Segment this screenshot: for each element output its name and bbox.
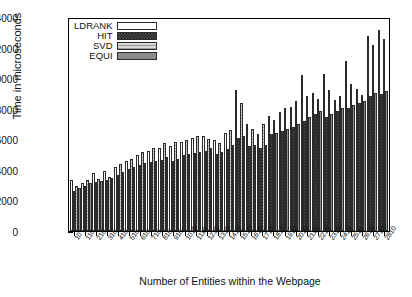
x-axis-title: Number of Entities within the Webpage <box>68 275 392 287</box>
bar-group <box>235 19 246 231</box>
bar-group <box>213 19 224 231</box>
y-axis-tick-6000: 6000 <box>0 135 18 146</box>
y-axis-tick-12000: 12000 <box>0 43 18 54</box>
bar-group <box>256 19 267 231</box>
bar-group <box>224 19 235 231</box>
bar-group <box>311 19 322 231</box>
bar-group <box>246 19 257 231</box>
y-axis-tick-10000: 10000 <box>0 74 18 85</box>
legend-swatch-hit <box>117 32 157 40</box>
bar-group <box>344 19 355 231</box>
bar-group <box>180 19 191 231</box>
bar-group <box>322 19 333 231</box>
bar-group <box>191 19 202 231</box>
bar-group <box>278 19 289 231</box>
chart-legend: LDRANKHITSVDEQUI <box>72 20 159 61</box>
bar-group <box>158 19 169 231</box>
legend-label: SVD <box>93 41 113 50</box>
legend-swatch-ldrank <box>117 22 157 30</box>
legend-item-equi: EQUI <box>74 51 157 60</box>
bar-group <box>289 19 300 231</box>
legend-item-svd: SVD <box>74 41 157 50</box>
legend-label: EQUI <box>89 51 112 60</box>
bar-group <box>377 19 388 231</box>
y-axis-tick-0: 0 <box>0 227 18 238</box>
y-axis-tick-14000: 14000 <box>0 13 18 24</box>
bar-group <box>366 19 377 231</box>
bar-group <box>333 19 344 231</box>
legend-label: LDRANK <box>74 21 113 30</box>
legend-swatch-svd <box>117 42 157 50</box>
bar-group <box>355 19 366 231</box>
legend-item-hit: HIT <box>74 31 157 40</box>
legend-item-ldrank: LDRANK <box>74 21 157 30</box>
bar-equi <box>385 91 388 231</box>
y-axis-tickmark <box>68 232 73 233</box>
y-axis-tick-4000: 4000 <box>0 165 18 176</box>
legend-swatch-equi <box>117 52 157 60</box>
bar-group <box>267 19 278 231</box>
bar-group <box>169 19 180 231</box>
y-axis-tick-8000: 8000 <box>0 104 18 115</box>
y-axis-tick-2000: 2000 <box>0 196 18 207</box>
bar-group <box>300 19 311 231</box>
legend-label: HIT <box>97 31 112 40</box>
bar-chart: Time in microseconds 0200040006000800010… <box>0 0 412 297</box>
bar-group <box>202 19 213 231</box>
